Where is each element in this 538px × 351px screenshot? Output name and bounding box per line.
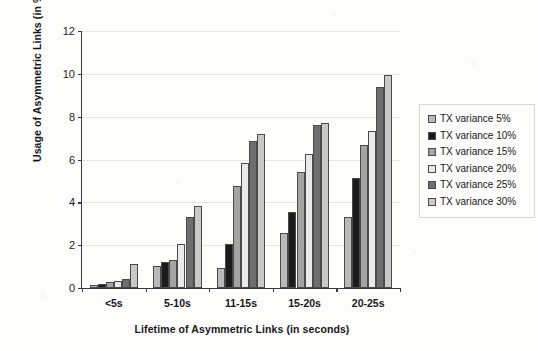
bar	[344, 217, 352, 288]
bar	[241, 163, 249, 288]
legend-item[interactable]: TX variance 20%	[428, 161, 530, 178]
bar	[186, 217, 194, 288]
y-tick-label: 4	[69, 196, 75, 208]
bar	[280, 233, 288, 288]
legend-label: TX variance 20%	[440, 164, 516, 174]
gridline	[82, 74, 400, 75]
legend-item[interactable]: TX variance 10%	[428, 128, 530, 145]
legend-item[interactable]: TX variance 25%	[428, 177, 530, 194]
y-tick-label: 8	[69, 111, 75, 123]
legend-swatch-icon	[428, 198, 436, 206]
gridline	[82, 160, 400, 161]
legend-swatch-icon	[428, 181, 436, 189]
y-axis-line	[81, 31, 82, 289]
legend-label: TX variance 15%	[440, 147, 516, 157]
bar	[305, 154, 313, 288]
y-axis-title: Usage of Asymmetric Links (in %)	[31, 0, 43, 191]
legend-label: TX variance 5%	[440, 114, 511, 124]
legend-item[interactable]: TX variance 30%	[428, 194, 530, 211]
bar	[122, 279, 130, 288]
y-tick-label: 10	[63, 68, 75, 80]
x-tick-label: 15-20s	[288, 297, 321, 309]
bar	[249, 141, 257, 288]
bar	[321, 123, 329, 288]
bar	[233, 186, 241, 288]
bar	[194, 206, 202, 288]
bar	[153, 266, 161, 288]
bar	[368, 131, 376, 288]
x-axis-line	[81, 288, 400, 289]
x-tick-label: <5s	[105, 297, 123, 309]
y-tick-label: 2	[69, 239, 75, 251]
x-tick-label: 20-25s	[352, 297, 385, 309]
bar	[313, 125, 321, 288]
bar	[114, 281, 122, 288]
legend-item[interactable]: TX variance 15%	[428, 144, 530, 161]
x-tick-mark	[400, 288, 401, 292]
bar	[257, 134, 265, 288]
legend-swatch-icon	[428, 165, 436, 173]
legend: TX variance 5%TX variance 10%TX variance…	[419, 104, 535, 218]
bar	[376, 87, 384, 288]
bar	[225, 244, 233, 288]
y-tick-label: 0	[69, 282, 75, 294]
gridline	[82, 31, 400, 32]
gridline	[82, 117, 400, 118]
legend-label: TX variance 30%	[440, 197, 516, 207]
y-tick-label: 12	[63, 25, 75, 37]
legend-swatch-icon	[428, 148, 436, 156]
y-tick-label: 6	[69, 154, 75, 166]
bar	[169, 260, 177, 288]
legend-swatch-icon	[428, 132, 436, 140]
bar	[360, 145, 368, 288]
bar	[384, 75, 392, 288]
bar	[130, 264, 138, 288]
bar	[161, 262, 169, 288]
x-tick-label: 5-10s	[164, 297, 191, 309]
plot-area: 024681012 <5s5-10s11-15s15-20s20-25s	[82, 31, 400, 288]
bar	[297, 172, 305, 288]
bar	[288, 212, 296, 288]
bar-chart: Usage of Asymmetric Links (in %) 0246810…	[0, 0, 538, 351]
legend-swatch-icon	[428, 115, 436, 123]
legend-item[interactable]: TX variance 5%	[428, 111, 530, 128]
legend-label: TX variance 10%	[440, 131, 516, 141]
bar	[177, 244, 185, 288]
x-tick-label: 11-15s	[225, 297, 257, 309]
bar	[217, 268, 225, 288]
x-axis-title: Lifetime of Asymmetric Links (in seconds…	[82, 323, 402, 335]
bar	[352, 178, 360, 288]
legend-label: TX variance 25%	[440, 180, 516, 190]
